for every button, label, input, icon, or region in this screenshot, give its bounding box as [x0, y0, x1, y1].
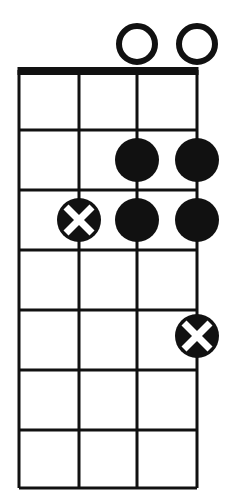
- dot-fret3-string3: [115, 198, 159, 242]
- nut-bar: [18, 67, 199, 75]
- fret-lines: [19, 130, 197, 488]
- chord-diagram-canvas: [0, 0, 235, 503]
- open-string-markers: [119, 26, 215, 62]
- chord-diagram: [0, 0, 235, 503]
- marker-disc: [175, 198, 219, 242]
- marker-disc: [175, 138, 219, 182]
- fretboard-grid: [18, 67, 199, 488]
- marker-disc: [115, 198, 159, 242]
- dot-fret2-string4: [175, 138, 219, 182]
- marker-disc: [115, 138, 159, 182]
- dot-fret2-string3: [115, 138, 159, 182]
- open-string-4: [179, 26, 215, 62]
- string-lines: [19, 70, 197, 488]
- dot-fret3-string2: [57, 198, 101, 242]
- dot-fret3-string4: [175, 198, 219, 242]
- open-string-3: [119, 26, 155, 62]
- dot-fret5-string4: [175, 314, 219, 358]
